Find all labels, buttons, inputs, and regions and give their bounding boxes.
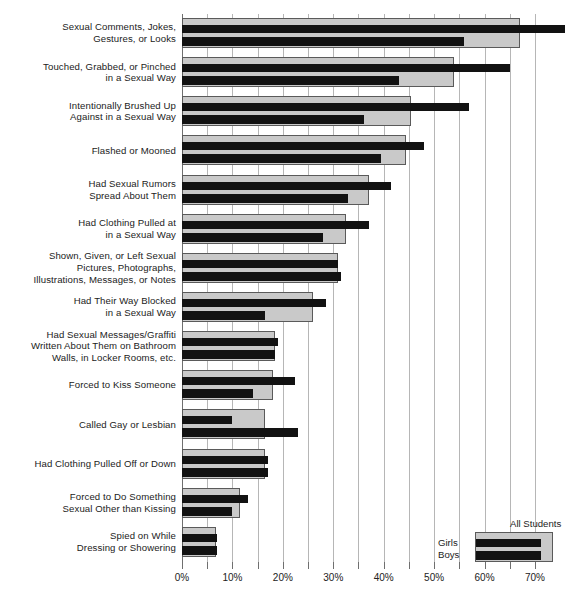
category-label-line: Spied on While xyxy=(0,530,176,542)
category-label-line: Dressing or Showering xyxy=(0,542,176,554)
x-tick-5 xyxy=(207,562,208,569)
category-label-line: Touched, Grabbed, or Pinched xyxy=(0,61,176,73)
bar-boys xyxy=(182,272,341,281)
category-label: Spied on WhileDressing or Showering xyxy=(0,530,176,553)
x-tick-45 xyxy=(409,562,410,569)
x-tick-35 xyxy=(358,562,359,569)
x-tick-20 xyxy=(283,562,284,569)
bar-groups xyxy=(182,14,582,562)
category-label: Shown, Given, or Left SexualPictures, Ph… xyxy=(0,250,176,285)
bar-boys xyxy=(182,389,253,398)
legend-swatch-girls xyxy=(476,539,541,547)
bar-group xyxy=(182,370,582,400)
category-label-line: Had Sexual Messages/Graffiti xyxy=(0,329,176,341)
bar-boys xyxy=(182,194,348,203)
category-label-line: Against in a Sexual Way xyxy=(0,111,176,123)
category-label: Had Sexual Messages/GraffitiWritten Abou… xyxy=(0,329,176,364)
category-label-line: Flashed or Mooned xyxy=(0,145,176,157)
category-label: Called Gay or Lesbian xyxy=(0,419,176,431)
bar-girls xyxy=(182,456,268,464)
category-label-line: Written About Them on Bathroom xyxy=(0,340,176,352)
category-label: Forced to Do SomethingSexual Other than … xyxy=(0,491,176,514)
x-tick-label: 10% xyxy=(222,572,242,583)
chart-legend: All Students Girls Boys xyxy=(430,518,580,566)
bar-girls xyxy=(182,495,248,503)
category-label-line: in a Sexual Way xyxy=(0,229,176,241)
bar-boys xyxy=(182,468,268,477)
category-label-line: Gestures, or Looks xyxy=(0,33,176,45)
category-label: Forced to Kiss Someone xyxy=(0,379,176,391)
x-tick-10 xyxy=(232,562,233,569)
category-label-line: Pictures, Photographs, xyxy=(0,262,176,274)
bar-girls xyxy=(182,377,295,385)
bar-boys xyxy=(182,115,364,124)
bar-group xyxy=(182,96,582,126)
bar-girls xyxy=(182,64,510,72)
x-tick-label: 0% xyxy=(175,572,189,583)
bar-boys xyxy=(182,311,265,320)
x-axis: 0%10%20%30%40%50%60%70% xyxy=(182,562,540,596)
bar-group xyxy=(182,214,582,244)
category-axis-labels: Sexual Comments, Jokes,Gestures, or Look… xyxy=(0,14,176,562)
bar-group xyxy=(182,488,582,518)
x-tick-label: 20% xyxy=(273,572,293,583)
category-label: Flashed or Mooned xyxy=(0,145,176,157)
bar-group xyxy=(182,292,582,322)
category-label-line: Spread About Them xyxy=(0,190,176,202)
x-tick-label: 70% xyxy=(525,572,545,583)
bar-girls xyxy=(182,260,338,268)
bar-boys xyxy=(182,76,399,85)
category-label-line: Forced to Kiss Someone xyxy=(0,379,176,391)
bar-group xyxy=(182,449,582,479)
x-tick-25 xyxy=(308,562,309,569)
category-label-line: Sexual Comments, Jokes, xyxy=(0,21,176,33)
category-label-line: in a Sexual Way xyxy=(0,307,176,319)
category-label-line: Shown, Given, or Left Sexual xyxy=(0,250,176,262)
plot-area xyxy=(182,14,540,562)
category-label: Touched, Grabbed, or Pinchedin a Sexual … xyxy=(0,61,176,84)
category-label-line: Sexual Other than Kissing xyxy=(0,503,176,515)
category-label: Intentionally Brushed UpAgainst in a Sex… xyxy=(0,100,176,123)
legend-label-all-students: All Students xyxy=(510,518,561,529)
category-label-line: Had Clothing Pulled Off or Down xyxy=(0,458,176,470)
x-tick-15 xyxy=(258,562,259,569)
bar-chart: Sexual Comments, Jokes,Gestures, or Look… xyxy=(0,0,582,600)
bar-group xyxy=(182,175,582,205)
bar-girls xyxy=(182,182,391,190)
bar-boys xyxy=(182,350,275,359)
bar-girls xyxy=(182,103,469,111)
legend-swatch-boys xyxy=(476,551,541,560)
x-tick-40 xyxy=(384,562,385,569)
category-label-line: Intentionally Brushed Up xyxy=(0,100,176,112)
bar-boys xyxy=(182,507,232,516)
x-tick-30 xyxy=(333,562,334,569)
x-tick-label: 60% xyxy=(475,572,495,583)
bar-boys xyxy=(182,233,323,242)
category-label: Had Sexual RumorsSpread About Them xyxy=(0,178,176,201)
bar-girls xyxy=(182,221,369,229)
bar-girls xyxy=(182,142,424,150)
bar-group xyxy=(182,18,582,48)
category-label-line: in a Sexual Way xyxy=(0,72,176,84)
bar-boys xyxy=(182,37,464,46)
bar-group xyxy=(182,331,582,361)
bar-boys xyxy=(182,154,381,163)
category-label: Had Their Way Blockedin a Sexual Way xyxy=(0,295,176,318)
x-tick-label: 50% xyxy=(424,572,444,583)
bar-girls xyxy=(182,299,326,307)
x-tick-0 xyxy=(182,562,183,569)
bar-girls xyxy=(182,416,232,424)
category-label-line: Forced to Do Something xyxy=(0,491,176,503)
category-label-line: Had Sexual Rumors xyxy=(0,178,176,190)
bar-group xyxy=(182,135,582,165)
bar-group xyxy=(182,253,582,283)
bar-boys xyxy=(182,428,298,437)
category-label-line: Called Gay or Lesbian xyxy=(0,419,176,431)
category-label: Sexual Comments, Jokes,Gestures, or Look… xyxy=(0,21,176,44)
bar-group xyxy=(182,57,582,87)
category-label: Had Clothing Pulled atin a Sexual Way xyxy=(0,217,176,240)
category-label-line: Had Clothing Pulled at xyxy=(0,217,176,229)
legend-label-boys: Boys xyxy=(438,549,459,560)
category-label-line: Had Their Way Blocked xyxy=(0,295,176,307)
bar-girls xyxy=(182,338,278,346)
